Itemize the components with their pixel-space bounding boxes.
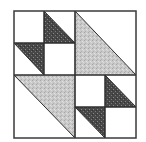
quilt-block-diagram xyxy=(0,0,146,142)
